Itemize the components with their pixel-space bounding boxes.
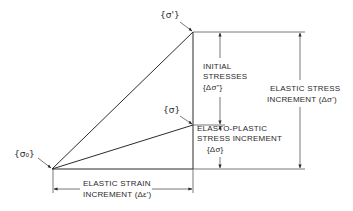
- elastic-path-line: [52, 32, 193, 169]
- actual-point-label: {σ}: [163, 105, 180, 115]
- elastic-stress-label-1: ELASTIC STRESS: [270, 84, 340, 93]
- elastoplastic-label-2: STRESS INCREMENT: [197, 134, 282, 143]
- elastoplastic-path-line: [52, 125, 193, 169]
- elastic-point-leader: [180, 22, 192, 31]
- origin-leader: [38, 158, 51, 168]
- elastic-strain-label-1: ELASTIC STRAIN: [83, 179, 151, 188]
- elastic-strain-label-2: INCREMENT (Δε'): [83, 190, 152, 199]
- elastoplastic-label-3: {Δσ}: [207, 145, 224, 154]
- elastoplastic-label-1: ELASTO-PLASTIC: [197, 124, 267, 133]
- elastic-stress-label-2: INCREMENT (Δσ'): [267, 95, 337, 104]
- actual-point-leader: [180, 116, 192, 124]
- initial-stresses-label-2: STRESSES: [203, 72, 247, 81]
- elastic-point-label: {σ'}: [160, 10, 180, 20]
- initial-stresses-label-3: {Δσ"}: [203, 83, 223, 92]
- origin-point-label: {σ₀}: [14, 149, 35, 159]
- stress-strain-diagram: {σ₀} {σ'} {σ} INITIAL STRESSES {Δσ"} ELA…: [0, 0, 353, 211]
- initial-stresses-label-1: INITIAL: [203, 62, 232, 71]
